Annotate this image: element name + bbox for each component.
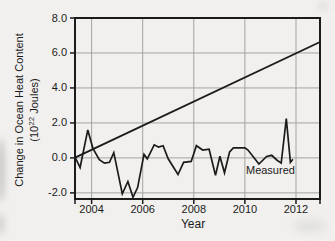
x-tick-label: 2010 [233, 203, 257, 215]
y-tick-label: -2.0 [48, 186, 67, 198]
y-axis-title-line1: Change in Ocean Heat Content [13, 33, 25, 187]
y-axis-title-line2: (1022 Joules) [27, 78, 40, 141]
x-tick-label: 2004 [79, 203, 103, 215]
y-tick-label: 2.0 [52, 116, 67, 128]
y-tick-label: 6.0 [52, 46, 67, 58]
x-tick-labels: 20042006200820102012 [79, 203, 308, 215]
y-tick-label: 8.0 [52, 12, 67, 24]
x-tick-label: 2006 [130, 203, 154, 215]
figure-container: -2.00.02.04.06.08.0 20042006200820102012… [0, 0, 335, 241]
axis-ticks [70, 18, 320, 204]
x-tick-label: 2012 [284, 203, 308, 215]
x-tick-label: 2008 [182, 203, 206, 215]
y-tick-labels: -2.00.02.04.06.08.0 [48, 12, 67, 199]
measured-series-label: Measured [246, 164, 295, 176]
y-tick-label: 0.0 [52, 151, 67, 163]
ocean-heat-content-chart: -2.00.02.04.06.08.0 20042006200820102012… [0, 0, 335, 241]
y-axis-title-suffix: Joules) [28, 78, 40, 117]
x-axis-title: Year [181, 217, 205, 231]
y-axis-title-prefix: (10 [28, 126, 40, 142]
y-tick-label: 4.0 [52, 81, 67, 93]
